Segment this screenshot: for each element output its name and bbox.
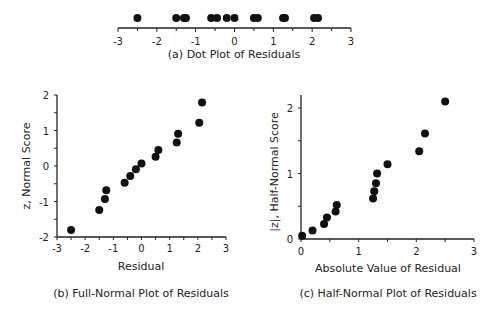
data-point [369,194,377,202]
tick-label: 1 [270,36,276,47]
tick-label: 3 [223,243,229,254]
dot-plot-panel: -3-2-10123 (a) Dot Plot of Residuals [113,14,354,61]
data-point [298,232,306,240]
figure: -3-2-10123 (a) Dot Plot of Residuals -3-… [0,0,503,311]
x-axis-label: Absolute Value of Residual [315,262,461,275]
tick-label: 0 [43,161,49,172]
data-points [133,14,322,22]
data-point [67,226,75,234]
data-point [95,206,103,214]
data-point [309,226,317,234]
tick-label: -1 [191,36,201,47]
tick-label: -2 [80,243,90,254]
x-axis-label: Residual [118,260,164,273]
tick-label: 2 [413,246,419,257]
tick-label: 0 [287,234,293,245]
tick-label: 0 [298,246,304,257]
tick-label: 2 [195,243,201,254]
data-point [421,130,429,138]
tick-label: 1 [355,246,361,257]
data-point [138,160,146,168]
y-axis-label: |z|, Half-Normal Score [268,112,281,232]
data-point [195,119,203,127]
tick-label: 1 [166,243,172,254]
data-point [198,98,206,106]
tick-label: 3 [471,246,477,257]
data-point [133,14,141,22]
y-axis-label: z, Normal Score [20,122,33,209]
data-points [298,97,449,239]
data-point [223,14,231,22]
tick-label: -2 [39,232,49,243]
tick-label: 3 [348,36,354,47]
data-point [373,170,381,178]
data-point [174,130,182,138]
tick-label: 2 [309,36,315,47]
tick-label: 1 [287,169,293,180]
full-normal-plot-panel: -3-2-10123-2-1012 Residual z, Normal Sco… [20,90,229,300]
half-normal-plot-panel: 0123012 Absolute Value of Residual |z|, … [268,95,477,300]
tick-label: -3 [52,243,62,254]
data-point [102,186,110,194]
tick-label: -1 [39,197,49,208]
data-point [370,187,378,195]
chart-title: (c) Half-Normal Plot of Residuals [299,287,477,300]
data-point [384,160,392,168]
x-axis-ticks: -3-2-10123 [113,28,354,47]
tick-label: 2 [43,90,49,101]
chart-title: (a) Dot Plot of Residuals [168,48,301,61]
data-points [67,98,206,233]
data-point [154,146,162,154]
data-point [213,14,221,22]
data-point [231,14,239,22]
data-point [254,14,262,22]
data-point [182,14,190,22]
tick-label: 0 [231,36,237,47]
tick-label: -3 [113,36,123,47]
data-point [101,195,109,203]
data-point [314,14,322,22]
data-point [173,139,181,147]
data-point [415,147,423,155]
axis-ticks: 0123012 [287,103,478,257]
data-point [372,179,380,187]
data-point [132,165,140,173]
data-point [281,14,289,22]
chart-title: (b) Full-Normal Plot of Residuals [53,287,229,300]
tick-label: -1 [108,243,118,254]
tick-label: 2 [287,103,293,114]
tick-label: 0 [138,243,144,254]
tick-label: 1 [43,126,49,137]
data-point [121,179,129,187]
data-point [126,172,134,180]
data-point [172,14,180,22]
data-point [333,201,341,209]
data-point [441,97,449,105]
tick-label: -2 [152,36,162,47]
data-point [323,213,331,221]
